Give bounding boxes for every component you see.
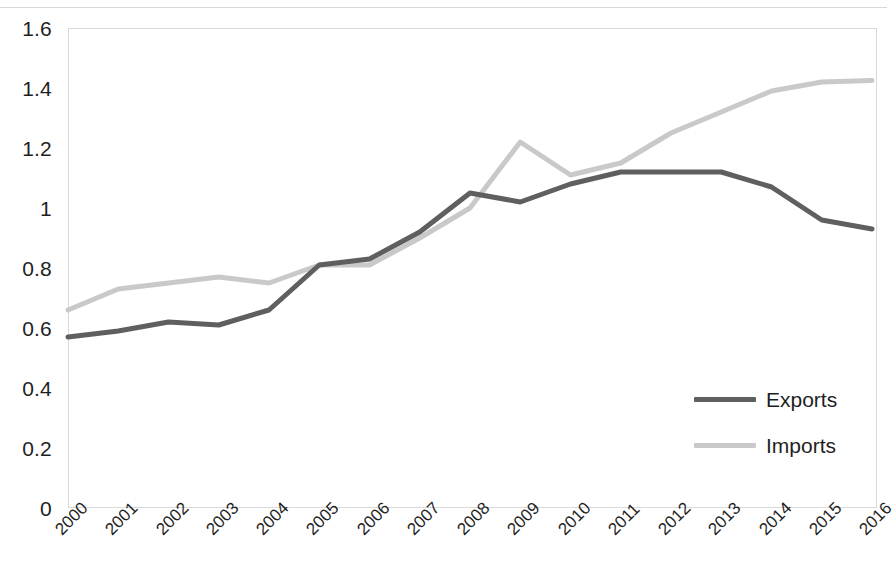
legend-label-imports: Imports [766,435,836,456]
x-tick-label: 2013 [705,499,744,538]
x-tick-label: 2002 [153,499,192,538]
x-tick-label: 2007 [404,499,443,538]
x-tick-label: 2010 [555,499,594,538]
x-tick-label: 2009 [504,499,543,538]
x-tick-label: 2003 [203,499,242,538]
x-tick-label: 2006 [354,499,393,538]
legend-item-exports: Exports [694,384,837,414]
x-tick-label: 2015 [806,499,845,538]
x-tick-label: 2008 [454,499,493,538]
x-tick-label: 2012 [655,499,694,538]
legend-swatch-imports [694,443,756,448]
x-tick-label: 2011 [605,500,643,538]
x-tick-label: 2000 [52,499,91,538]
x-tick-label: 2016 [856,499,895,538]
chart-legend: Exports Imports [694,378,874,460]
x-tick-label: 2014 [756,499,795,538]
x-tick-label: 2001 [102,499,141,538]
legend-swatch-exports [694,397,756,402]
x-tick-label: 2004 [253,499,292,538]
legend-item-imports: Imports [694,430,836,460]
legend-label-exports: Exports [766,389,837,410]
x-tick-label: 2005 [303,499,342,538]
